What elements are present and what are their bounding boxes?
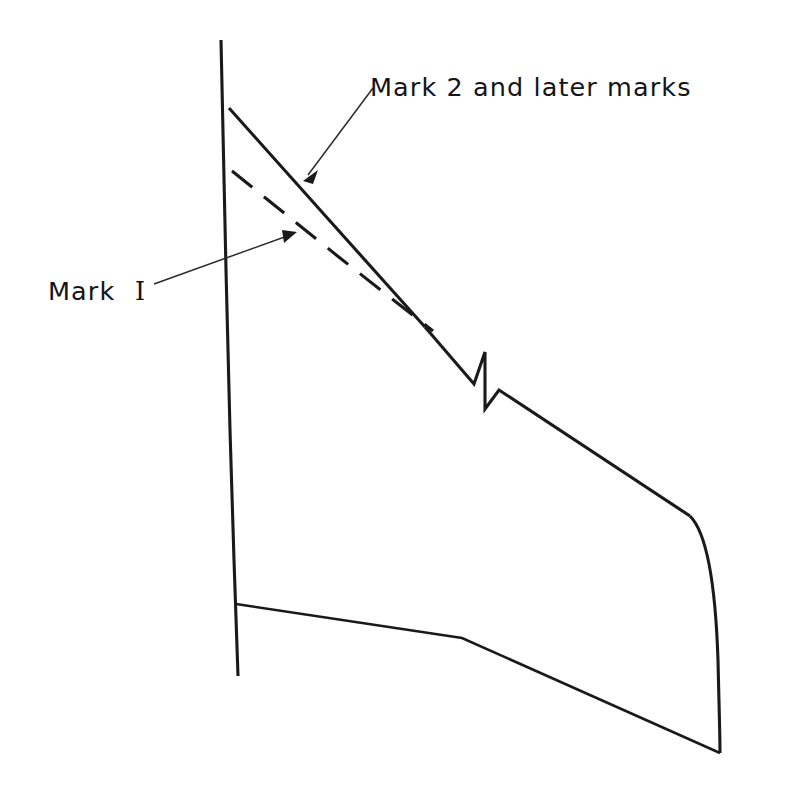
mark1-leader-arrowhead: [282, 230, 297, 243]
mark1-label-numeral: I: [135, 276, 145, 306]
waterline-lower-edge: [236, 604, 720, 753]
mark1-leader-line: [154, 235, 290, 284]
profile-drawing: Mark 2 and later marks Mark I: [0, 0, 798, 804]
mark2-upper-sheer-line: [229, 108, 425, 327]
lower-hull-profile: [425, 327, 690, 516]
mark1-label: Mark: [48, 276, 115, 306]
diagram-canvas: Mark 2 and later marks Mark I: [0, 0, 798, 804]
mark2-leader-line: [308, 88, 373, 175]
mark2-label: Mark 2 and later marks: [370, 72, 692, 102]
stern-curved-edge: [690, 516, 720, 753]
vertical-mast-line: [221, 40, 238, 676]
mark1-dashed-sheer-line: [232, 171, 433, 331]
